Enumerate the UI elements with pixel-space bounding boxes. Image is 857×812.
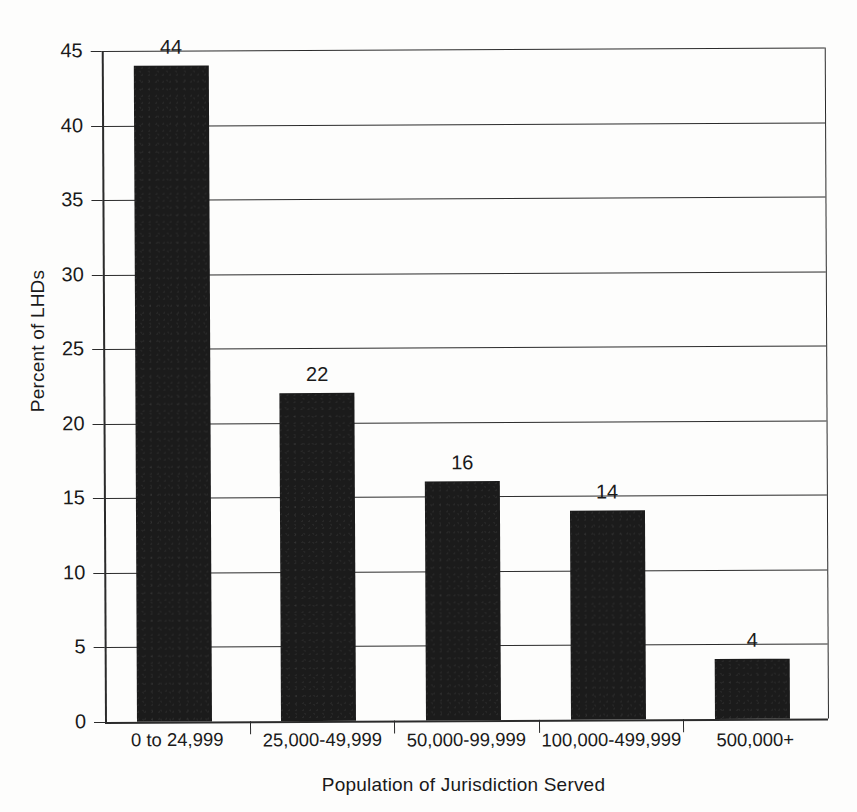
bar-value-label: 16 [425, 451, 500, 474]
bar [425, 482, 501, 721]
x-axis-category-label: 0 to 24,999 [105, 728, 250, 751]
x-axis-title: Population of Jurisdiction Served [0, 774, 857, 796]
gridline [102, 122, 825, 127]
y-axis-tick-label: 5 [74, 636, 85, 659]
bar-chart-figure: Percent of LHDs 442216144 45403530252015… [0, 0, 857, 812]
y-axis-tick-label: 30 [62, 263, 84, 286]
y-axis-tick: 10 [93, 573, 104, 574]
y-axis-tick-label: 45 [60, 39, 82, 62]
y-axis-tick: 5 [94, 647, 105, 648]
y-axis-tick-label: 20 [62, 412, 84, 435]
y-axis-tick: 15 [93, 498, 104, 499]
y-axis-title: Percent of LHDs [27, 211, 49, 471]
gridlines [102, 47, 825, 51]
bar-value-label: 4 [715, 629, 790, 652]
y-axis-tick-label: 25 [62, 337, 84, 360]
y-axis-tick: 35 [91, 200, 102, 201]
bar [570, 511, 646, 720]
gridline [102, 197, 825, 202]
y-axis-tick-label: 35 [61, 188, 83, 211]
gridline [103, 271, 826, 276]
y-axis-tick-label: 40 [61, 114, 83, 137]
y-axis-tick-label: 10 [63, 561, 85, 584]
gridline [102, 47, 825, 52]
y-axis-tick: 40 [91, 126, 102, 127]
y-axis-tick-label: 15 [63, 486, 85, 509]
x-axis-line [105, 718, 828, 724]
x-axis-category-label: 50,000-99,999 [394, 728, 539, 751]
x-axis-category-label: 100,000-499,999 [539, 728, 684, 751]
y-axis-tick: 0 [94, 722, 105, 723]
bar [134, 65, 212, 721]
x-axis-category-label: 500,000+ [683, 728, 828, 751]
y-axis-tick: 25 [92, 349, 103, 350]
y-axis-tick-label: 0 [75, 710, 86, 733]
bar [280, 393, 357, 721]
gridline [104, 420, 827, 425]
bar-value-label: 14 [569, 481, 644, 504]
y-axis-line [102, 51, 107, 722]
y-axis-tick: 30 [92, 275, 103, 276]
bar [715, 659, 790, 719]
bar-value-label: 44 [133, 35, 208, 58]
x-axis-category-labels: 0 to 24,99925,000-49,99950,000-99,999100… [105, 729, 828, 759]
y-axis-tick: 20 [93, 424, 104, 425]
plot-right-border [825, 47, 829, 718]
y-axis-tick: 45 [91, 51, 102, 52]
bar-value-label: 22 [280, 363, 355, 386]
plot-area: 442216144 454035302520151050 [102, 47, 828, 722]
x-axis-category-label: 25,000-49,999 [250, 728, 395, 751]
gridline [103, 346, 826, 351]
